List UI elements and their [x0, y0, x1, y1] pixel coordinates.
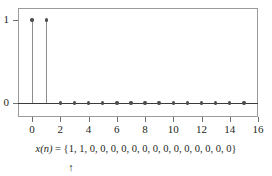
x-axis-tick: [202, 117, 203, 122]
data-point-marker: [45, 18, 48, 21]
stem-line: [46, 20, 47, 103]
caption-variable: x(n): [36, 143, 53, 154]
up-arrow-icon: ↑: [68, 162, 74, 173]
stem-line: [32, 20, 33, 103]
x-axis-tick: [89, 117, 90, 122]
x-axis-tick: [258, 117, 259, 122]
x-axis-tick-label: 6: [107, 123, 127, 135]
x-axis-tick-label: 16: [248, 123, 268, 135]
data-point-marker: [172, 101, 175, 104]
data-point-marker: [115, 101, 118, 104]
x-axis-tick-label: 2: [50, 123, 70, 135]
x-axis-tick-label: 0: [22, 123, 42, 135]
x-axis-tick: [60, 117, 61, 122]
x-axis-tick: [32, 117, 33, 122]
y-axis-tick: [13, 20, 18, 21]
data-point-marker: [87, 101, 90, 104]
y-axis-tick-label: 1: [0, 14, 9, 25]
origin-arrow-row: ↑: [0, 154, 272, 164]
x-axis-tick: [117, 117, 118, 122]
x-axis-tick: [173, 117, 174, 122]
x-axis-tick-label: 12: [192, 123, 212, 135]
data-point-marker: [157, 101, 160, 104]
y-axis-tick-label: 0: [0, 97, 9, 108]
data-point-marker: [129, 101, 132, 104]
data-point-marker: [143, 101, 146, 104]
data-point-marker: [186, 101, 189, 104]
plot-frame: [18, 8, 258, 117]
zero-baseline: [18, 103, 258, 104]
y-axis-tick: [13, 103, 18, 104]
stem-plot-figure: 01 0246810121416 x(n) = {1, 1, 0, 0, 0, …: [0, 0, 272, 176]
x-axis-tick-label: 10: [163, 123, 183, 135]
data-point-marker: [200, 101, 203, 104]
data-point-marker: [30, 18, 33, 21]
caption-close-brace: }: [231, 143, 236, 154]
caption-equals: = {: [52, 143, 68, 154]
x-axis-tick-label: 14: [220, 123, 240, 135]
x-axis-tick-label: 8: [135, 123, 155, 135]
data-point-marker: [73, 101, 76, 104]
data-point-marker: [242, 101, 245, 104]
data-point-marker: [214, 101, 217, 104]
x-axis-tick-label: 4: [79, 123, 99, 135]
x-axis-tick: [230, 117, 231, 122]
x-axis-tick: [145, 117, 146, 122]
data-point-marker: [59, 101, 62, 104]
